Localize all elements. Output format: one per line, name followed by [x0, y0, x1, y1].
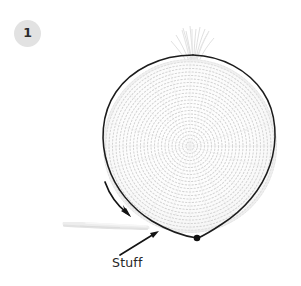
start-point-dot [194, 235, 201, 242]
step-number-badge: 1 [14, 20, 41, 47]
stuff-label: Stuff [112, 255, 143, 270]
step-number-label: 1 [23, 27, 32, 40]
crochet-circle-photo [0, 0, 301, 286]
illustration-canvas: 1 Stuff [0, 0, 301, 286]
